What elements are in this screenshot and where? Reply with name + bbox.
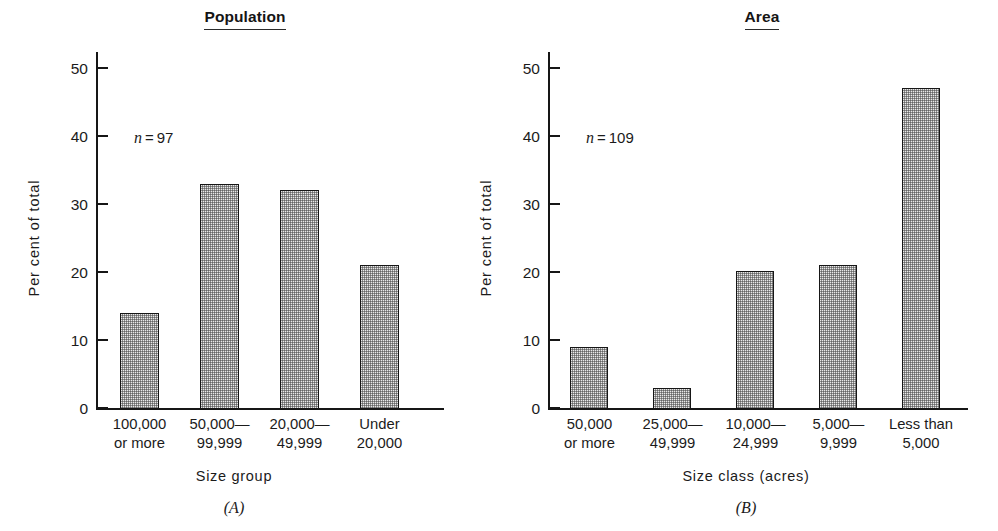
n-equals: =: [142, 129, 157, 146]
sample-size-annotation: n=109: [586, 129, 634, 147]
panel-caption-b: (B): [526, 499, 966, 517]
y-tick-label-10: 10: [500, 333, 540, 349]
y-tick-30: [549, 203, 560, 205]
n-symbol: n: [134, 129, 142, 146]
y-axis-line: [96, 52, 98, 410]
x-category-label-0: 50,000 or more: [545, 415, 634, 453]
bar-population-2: [280, 190, 319, 409]
n-value: 109: [609, 129, 634, 146]
y-tick-label-30: 30: [48, 197, 88, 213]
bar-area-0: [570, 347, 608, 409]
x-axis-title: Size class (acres): [526, 468, 966, 484]
figure-two-bar-charts: Population 0 10 20 30 40 50 Per cent of …: [0, 0, 998, 531]
y-tick-10: [549, 339, 560, 341]
x-category-label-2: 10,000— 24,999: [713, 415, 798, 453]
panel-caption-a: (A): [14, 499, 454, 517]
y-axis-title: Per cent of total: [478, 158, 494, 318]
y-tick-0: [97, 407, 108, 409]
y-axis-title: Per cent of total: [26, 158, 42, 318]
bar-population-1: [200, 184, 239, 409]
bar-area-4: [902, 88, 940, 409]
plot-area-population: 0 10 20 30 40 50 Per cent of total n=97 …: [0, 0, 490, 531]
y-tick-label-20: 20: [500, 265, 540, 281]
x-category-label-2: 20,000— 49,999: [257, 415, 342, 453]
y-tick-label-40: 40: [48, 129, 88, 145]
y-tick-40: [549, 135, 560, 137]
y-tick-0: [549, 407, 560, 409]
y-tick-label-20: 20: [48, 265, 88, 281]
y-tick-label-50: 50: [48, 61, 88, 77]
y-tick-30: [97, 203, 108, 205]
y-tick-label-30: 30: [500, 197, 540, 213]
n-equals: =: [594, 129, 609, 146]
x-category-label-4: Less than 5,000: [873, 415, 969, 453]
y-tick-50: [97, 67, 108, 69]
bar-population-0: [120, 313, 159, 409]
y-tick-label-40: 40: [500, 129, 540, 145]
y-tick-10: [97, 339, 108, 341]
bar-area-1: [653, 388, 691, 409]
n-value: 97: [157, 129, 174, 146]
sample-size-annotation: n=97: [134, 129, 173, 147]
x-category-label-0: 100,000 or more: [95, 415, 184, 453]
panel-area: Area 0 10 20 30 40 50 Per cent of total …: [490, 0, 998, 531]
y-tick-20: [97, 271, 108, 273]
x-category-label-1: 25,000— 49,999: [630, 415, 715, 453]
y-tick-50: [549, 67, 560, 69]
x-axis-title: Size group: [14, 468, 454, 484]
n-symbol: n: [586, 129, 594, 146]
plot-area-area: 0 10 20 30 40 50 Per cent of total n=109…: [490, 0, 998, 531]
x-category-label-1: 50,000— 99,999: [177, 415, 262, 453]
x-category-label-3: Under 20,000: [337, 415, 422, 453]
x-category-label-3: 5,000— 9,999: [796, 415, 881, 453]
panel-population: Population 0 10 20 30 40 50 Per cent of …: [0, 0, 490, 531]
y-axis-line: [548, 52, 550, 410]
y-tick-40: [97, 135, 108, 137]
bar-area-3: [819, 265, 857, 409]
y-tick-label-10: 10: [48, 333, 88, 349]
y-tick-label-0: 0: [500, 401, 540, 417]
bar-population-3: [360, 265, 399, 409]
bar-area-2: [736, 271, 774, 409]
y-tick-20: [549, 271, 560, 273]
y-tick-label-0: 0: [48, 401, 88, 417]
y-tick-label-50: 50: [500, 61, 540, 77]
